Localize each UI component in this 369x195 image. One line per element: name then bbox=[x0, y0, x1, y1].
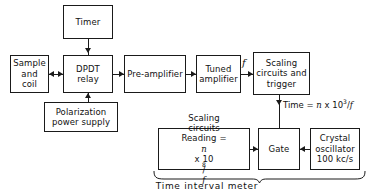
box-sample-and-coil-label: Sample and coil bbox=[11, 58, 47, 89]
box-dpdt-relay-label: DPDT relay bbox=[74, 64, 102, 85]
arrowhead-dpdt-to-sample bbox=[49, 71, 54, 77]
box-scaling-circuits[interactable]: Scaling circuits Reading = n x 108/f bbox=[158, 128, 250, 170]
box-preamplifier[interactable]: Pre-amplifier bbox=[124, 55, 186, 93]
box-polarization-power-supply-label: Polarization power supply bbox=[50, 107, 112, 128]
box-gate-label: Gate bbox=[267, 144, 292, 154]
box-tuned-amplifier-label: Tuned amplifier bbox=[197, 64, 240, 85]
box-sample-and-coil[interactable]: Sample and coil bbox=[10, 55, 49, 93]
box-scaling-circuits-and-trigger[interactable]: Scaling circuits and trigger bbox=[253, 52, 310, 95]
box-crystal-oscillator[interactable]: Crystal oscillator 100 kc/s bbox=[310, 128, 360, 170]
box-dpdt-relay[interactable]: DPDT relay bbox=[63, 55, 113, 93]
time-formula-annotation: Time = n x 103/f bbox=[283, 101, 353, 110]
arrowhead-crystal-to-gate bbox=[300, 146, 305, 152]
box-scaling-circuits-and-trigger-label: Scaling circuits and trigger bbox=[254, 58, 308, 89]
box-timer-label: Timer bbox=[74, 17, 103, 27]
box-timer[interactable]: Timer bbox=[63, 5, 113, 39]
box-scaling-circuits-label: Scaling circuits Reading = n x 108/f bbox=[179, 113, 228, 186]
box-tuned-amplifier[interactable]: Tuned amplifier bbox=[196, 55, 241, 93]
box-preamplifier-label: Pre-amplifier bbox=[125, 69, 185, 79]
time-interval-meter-caption: Time interval meter bbox=[156, 181, 258, 191]
arrowhead-scaling-trigger-to-gate bbox=[276, 100, 282, 105]
box-gate[interactable]: Gate bbox=[258, 128, 300, 170]
frequency-label: f bbox=[242, 57, 246, 68]
scaling-circuits-reading-formula: Reading = n x 108/f bbox=[181, 133, 226, 185]
box-crystal-oscillator-label: Crystal oscillator 100 kc/s bbox=[313, 133, 357, 164]
box-polarization-power-supply[interactable]: Polarization power supply bbox=[44, 102, 118, 132]
block-diagram: Timer Sample and coil DPDT relay Pre-amp… bbox=[0, 0, 369, 195]
arrowhead-polarization-to-dpdt bbox=[85, 93, 91, 98]
arrowhead-timer-to-dpdt bbox=[85, 48, 91, 53]
